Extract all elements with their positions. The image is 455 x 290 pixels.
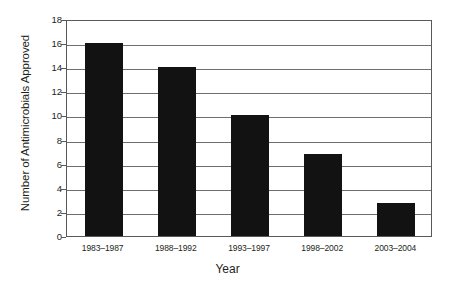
- y-axis-tick-label: 0: [36, 232, 62, 242]
- y-axis-tick-mark: [61, 237, 66, 238]
- x-axis-tick-label: 1993–1997: [228, 243, 270, 253]
- x-axis-tick-label: 1998–2002: [301, 243, 343, 253]
- x-axis-title: Year: [0, 262, 455, 276]
- x-axis-tick-label: 1988–1992: [155, 243, 197, 253]
- y-axis-tick-label: 16: [36, 39, 62, 49]
- y-axis-tick-label: 6: [36, 160, 62, 170]
- bar: [231, 115, 269, 236]
- y-axis-tick-label: 10: [36, 112, 62, 122]
- bar: [158, 67, 196, 236]
- y-axis-title-label: Number of Antimicrobials Approved: [19, 34, 31, 210]
- y-axis-tick-label: 8: [36, 136, 62, 146]
- plot-area: [66, 20, 432, 237]
- bar: [377, 203, 415, 236]
- y-axis-title: Number of Antimicrobials Approved: [12, 0, 38, 245]
- y-axis-tick-label: 14: [36, 63, 62, 73]
- bar-chart-figure: Number of Antimicrobials Approved 024681…: [0, 0, 455, 290]
- y-axis-tick-label: 18: [36, 15, 62, 25]
- bar: [85, 43, 123, 236]
- y-axis-tick-label: 12: [36, 88, 62, 98]
- x-axis-tick-label: 1983–1987: [82, 243, 124, 253]
- y-axis-tick-label: 4: [36, 184, 62, 194]
- bar: [304, 154, 342, 236]
- x-axis-tick-label: 2003–2004: [375, 243, 417, 253]
- y-axis-tick-label: 2: [36, 208, 62, 218]
